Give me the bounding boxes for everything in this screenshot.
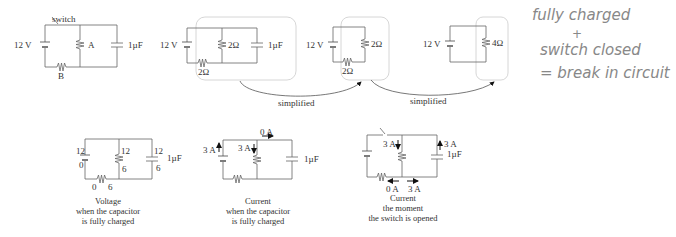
resistor-b-label: B: [58, 71, 64, 81]
capacitor-label: 1µF: [447, 149, 462, 159]
capacitor-label: 1µF: [304, 154, 319, 164]
current-opened-diagram: [362, 128, 443, 181]
handwritten-note-line3: switch closed: [540, 40, 641, 60]
open-switch-icon: [380, 128, 385, 134]
capacitor-label: 1µF: [128, 40, 143, 50]
simplified-arrow-2: [371, 80, 494, 95]
resistor-current-label: 3 A: [383, 139, 396, 149]
resistor-current-label: 3 A: [238, 143, 251, 153]
capacitor-label: 1µF: [167, 153, 182, 163]
voltage-diagram: [80, 139, 158, 183]
battery-label: 12 V: [423, 39, 441, 49]
resistor-a-top-voltage: 12: [121, 146, 130, 156]
current-opened-caption: Current the moment the switch is opened: [353, 193, 453, 223]
resistor-b-left-voltage: 0: [92, 182, 97, 192]
circuit-step3: [445, 17, 508, 80]
handwritten-note-line1: fully charged: [532, 5, 630, 25]
handwritten-note-line4: = break in circuit: [540, 63, 670, 83]
battery-bottom-voltage: 0: [79, 160, 84, 170]
series-resistor-label: 2Ω: [198, 67, 209, 77]
capacitor-bottom-voltage: 6: [156, 163, 161, 173]
current-charged-diagram: [218, 136, 298, 183]
simplified-arrow-1: [240, 81, 361, 96]
battery-label: 12 V: [160, 40, 178, 50]
resistor-a-label: A: [88, 40, 95, 50]
resistor-label: 4Ω: [492, 38, 503, 48]
resistor-a-bottom-voltage: 6: [122, 164, 127, 174]
battery-current-label: 3 A: [203, 145, 216, 155]
parallel-resistor-label: 2Ω: [228, 40, 239, 50]
battery-label: 12 V: [306, 40, 324, 50]
series-resistor-label: 2Ω: [342, 66, 353, 76]
battery-label: 12 V: [14, 40, 32, 50]
resistor-label: 2Ω: [371, 39, 382, 49]
capacitor-top-voltage: 12: [154, 146, 163, 156]
simplified-label-2: simplified: [410, 96, 447, 106]
capacitor-current-label: 3 A: [444, 139, 457, 149]
voltage-caption: Voltage when the capacitor is fully char…: [58, 196, 158, 226]
capacitor-label: 1µF: [268, 40, 283, 50]
simplified-label-1: simplified: [278, 98, 315, 108]
current-charged-caption: Current when the capacitor is fully char…: [208, 196, 308, 226]
circuit-original: [40, 17, 123, 71]
switch-label: switch: [52, 14, 76, 24]
battery-top-voltage: 12: [76, 146, 85, 156]
resistor-b-right-voltage: 6: [108, 182, 113, 192]
capacitor-branch-current-label: 0 A: [260, 127, 273, 137]
